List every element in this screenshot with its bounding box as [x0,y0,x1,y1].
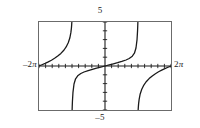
x-min-label: –2π [6,60,37,69]
x-max-label-unit: π [179,59,184,69]
x-min-label-unit: π [32,59,37,69]
y-max-label: 5 [0,6,200,15]
x-min-label-value: –2 [23,59,32,69]
curve-left-branch [39,22,72,66]
plot-frame [38,21,172,111]
graph-figure: 5 –2π 2π –5 [0,0,200,128]
plot-canvas [39,22,171,110]
y-min-label: –5 [0,113,200,122]
curve-right-branch [138,66,171,110]
x-max-label: 2π [174,60,200,69]
